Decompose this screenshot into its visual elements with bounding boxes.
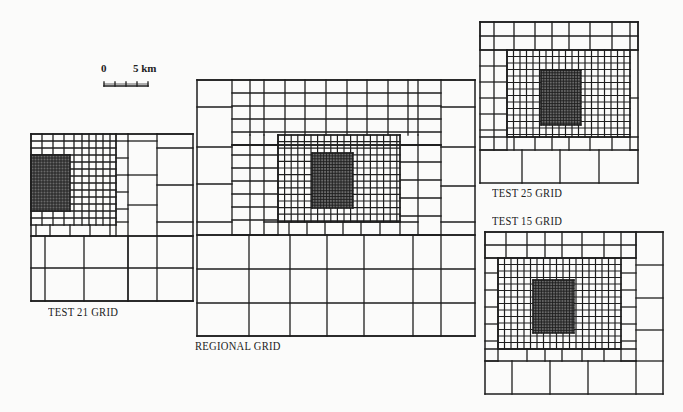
test-25-grid-label: TEST 25 GRID xyxy=(492,187,562,199)
scale-end-label: 5 km xyxy=(133,62,157,74)
test-21-grid-label: TEST 21 GRID xyxy=(48,306,118,318)
test-15-grid-label: TEST 15 GRID xyxy=(492,215,562,227)
test-25-grid xyxy=(480,22,638,183)
regional-grid-label: REGIONAL GRID xyxy=(195,340,281,352)
regional-grid xyxy=(197,80,475,336)
scale-start-label: 0 xyxy=(101,62,107,74)
scale-bar xyxy=(104,82,148,86)
test-21-grid xyxy=(31,134,193,301)
test-15-grid xyxy=(485,232,663,394)
